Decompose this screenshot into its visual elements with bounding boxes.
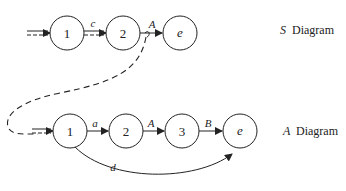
a-edge-B-label: B bbox=[205, 117, 212, 129]
a-edge-d-label: d bbox=[110, 161, 116, 173]
a-edge-a-label: a bbox=[92, 117, 98, 129]
a-caption-text: Diagram bbox=[296, 124, 339, 138]
a-node-e-label: e bbox=[237, 123, 243, 138]
a-caption-symbol: A bbox=[282, 124, 291, 138]
s-caption-text: Diagram bbox=[292, 23, 335, 37]
a-node-3-label: 3 bbox=[179, 124, 186, 139]
a-diagram: 1 a 2 A 3 B e d A Diagram bbox=[32, 114, 339, 174]
s-caption-symbol: S bbox=[280, 23, 286, 37]
s-node-1-label: 1 bbox=[64, 26, 71, 41]
s-edge-A-label: A bbox=[148, 18, 156, 30]
s-node-e-label: e bbox=[177, 25, 183, 40]
a-edge-1-e-curve bbox=[75, 147, 232, 174]
s-node-2-label: 2 bbox=[120, 26, 127, 41]
s-diagram: 1 c 2 A e S Diagram bbox=[27, 16, 335, 50]
a-edge-A-label: A bbox=[147, 117, 155, 129]
s-edge-c-label: c bbox=[91, 17, 96, 29]
a-node-1-label: 1 bbox=[67, 124, 74, 139]
a-node-2-label: 2 bbox=[123, 124, 130, 139]
s-call-hook bbox=[145, 32, 149, 37]
diagram-canvas: 1 c 2 A e S Diagram 1 a 2 A 3 B bbox=[0, 0, 346, 191]
